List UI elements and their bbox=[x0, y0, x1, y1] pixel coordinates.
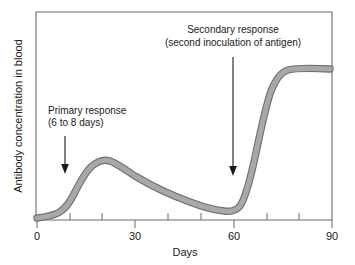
x-axis-title: Days bbox=[172, 246, 198, 258]
primary-response-label-line2: (6 to 8 days) bbox=[48, 117, 104, 128]
immune-response-chart: 0 30 60 90 Days Antibody concentration i… bbox=[0, 0, 355, 265]
x-tick-label-90: 90 bbox=[326, 230, 338, 242]
secondary-response-label-line1: Secondary response bbox=[187, 24, 279, 35]
primary-response-label-line1: Primary response bbox=[48, 105, 127, 116]
antibody-curve-outline bbox=[37, 68, 330, 218]
x-tick-label-60: 60 bbox=[228, 230, 240, 242]
secondary-response-label-line2: (second inoculation of antigen) bbox=[165, 37, 301, 48]
x-axis-major-ticks bbox=[37, 220, 332, 228]
secondary-response-arrow-icon bbox=[229, 166, 237, 176]
chart-figure: 0 30 60 90 Days Antibody concentration i… bbox=[0, 0, 355, 265]
secondary-response-annotation: Secondary response (second inoculation o… bbox=[165, 24, 301, 176]
primary-response-arrow-icon bbox=[61, 164, 69, 174]
x-tick-label-30: 30 bbox=[129, 230, 141, 242]
x-axis-minor-ticks bbox=[70, 213, 299, 220]
x-tick-label-0: 0 bbox=[34, 230, 40, 242]
antibody-curve-band bbox=[37, 68, 330, 218]
y-axis-title: Antibody concentration in blood bbox=[12, 39, 24, 193]
